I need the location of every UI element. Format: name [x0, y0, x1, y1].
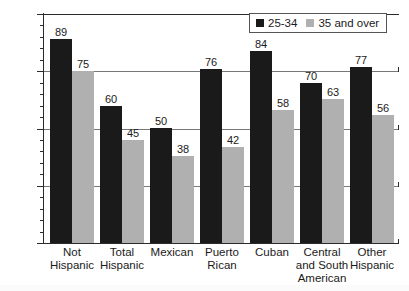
bars-layer: 89 75 60 45 50 38: [44, 14, 398, 243]
plot-area: 89 75 60 45 50 38: [44, 14, 398, 243]
x-label-line: Other: [341, 246, 403, 259]
bar-chart: 100 75 50 25 0: [0, 0, 409, 291]
bar-35-and-over[interactable]: 45: [122, 140, 144, 243]
bar-35-and-over[interactable]: 42: [222, 147, 244, 243]
bar-group-mexican: 50 38: [150, 14, 194, 243]
bar-25-34[interactable]: 84: [250, 51, 272, 243]
scan-artifact: [0, 285, 409, 291]
y-tick-100: [37, 14, 44, 15]
bar-35-and-over[interactable]: 75: [72, 71, 94, 243]
bar-value-label: 38: [177, 144, 189, 155]
bar-value-label: 50: [155, 116, 167, 127]
bar-group-not-hispanic: 89 75: [50, 14, 94, 243]
bar-25-34[interactable]: 76: [200, 69, 222, 243]
grid-end-tick: [398, 182, 399, 187]
bar-25-34[interactable]: 89: [50, 39, 72, 243]
bar-group-total-hispanic: 60 45: [100, 14, 144, 243]
bar-value-label: 76: [205, 57, 217, 68]
x-axis-label-other-hispanic: Other Hispanic: [341, 246, 403, 272]
bar-25-34[interactable]: 77: [350, 67, 372, 243]
x-label-line: Hispanic: [341, 259, 403, 272]
bar-value-label: 63: [327, 87, 339, 98]
bar-35-and-over[interactable]: 58: [272, 110, 294, 243]
legend-item-35-and-over[interactable]: 35 and over: [306, 17, 379, 29]
bar-25-34[interactable]: 50: [150, 128, 172, 243]
legend-item-25-34[interactable]: 25-34: [256, 17, 297, 29]
bar-25-34[interactable]: 60: [100, 106, 122, 243]
bar-value-label: 58: [277, 98, 289, 109]
y-tick-0: [37, 243, 44, 244]
bar-value-label: 77: [355, 55, 367, 66]
bar-35-and-over[interactable]: 38: [172, 156, 194, 243]
grid-end-tick: [398, 239, 399, 244]
bar-value-label: 84: [255, 39, 267, 50]
y-tick-50: [37, 129, 44, 130]
bar-group-puerto-rican: 76 42: [200, 14, 244, 243]
bar-value-label: 70: [305, 71, 317, 82]
y-tick-75: [37, 71, 44, 72]
x-label-line: Hispanic: [91, 259, 153, 272]
gridline-0-baseline: [44, 243, 398, 244]
bar-35-and-over[interactable]: 63: [322, 99, 344, 243]
bar-group-central-and-south-american: 70 63: [300, 14, 344, 243]
x-label-line: Rican: [191, 259, 253, 272]
bar-25-34[interactable]: 70: [300, 83, 322, 243]
bar-value-label: 45: [127, 128, 139, 139]
bar-value-label: 56: [377, 103, 389, 114]
bar-value-label: 75: [77, 59, 89, 70]
bar-value-label: 89: [55, 27, 67, 38]
gray-square-swatch-icon: [306, 19, 314, 27]
black-square-swatch-icon: [256, 19, 264, 27]
bar-group-other-hispanic: 77 56: [350, 14, 394, 243]
grid-end-tick: [398, 14, 399, 15]
grid-end-tick: [398, 67, 399, 72]
chart-legend: 25-34 35 and over: [249, 13, 387, 33]
legend-label: 25-34: [268, 17, 297, 29]
bar-value-label: 42: [227, 135, 239, 146]
bar-value-label: 60: [105, 94, 117, 105]
bar-group-cuban: 84 58: [250, 14, 294, 243]
x-label-line: American: [291, 272, 353, 285]
legend-label: 35 and over: [318, 17, 379, 29]
grid-end-tick: [398, 125, 399, 130]
bar-35-and-over[interactable]: 56: [372, 115, 394, 243]
y-tick-25: [37, 186, 44, 187]
